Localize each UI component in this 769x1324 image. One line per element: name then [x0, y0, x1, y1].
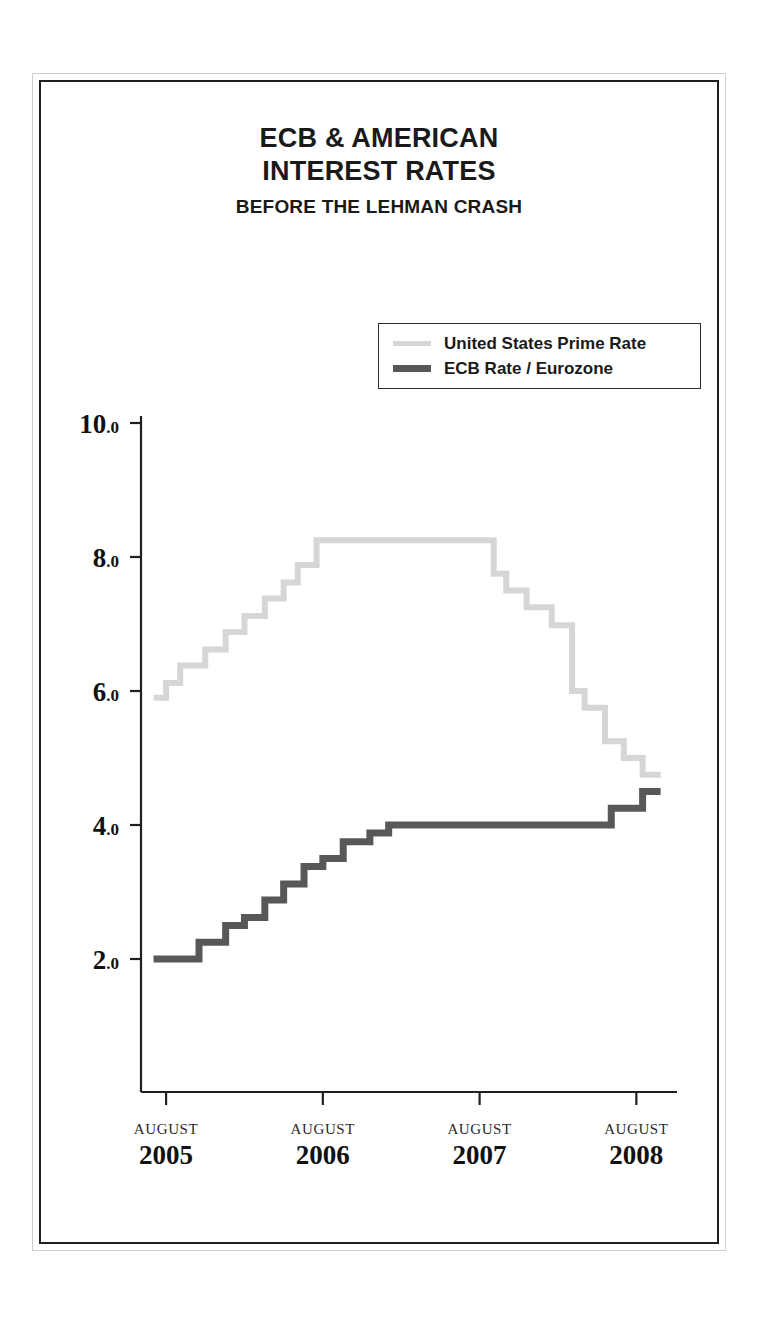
svg-text:2008: 2008 — [609, 1140, 663, 1170]
chart-plot-area: 2.04.06.08.010.0 AUGUST2005AUGUST2006AUG… — [41, 82, 735, 1260]
svg-text:2007: 2007 — [453, 1140, 507, 1170]
svg-text:AUGUST: AUGUST — [604, 1121, 668, 1137]
svg-text:AUGUST: AUGUST — [447, 1121, 511, 1137]
chart-series — [154, 540, 661, 959]
figure-frame-outer: ECB & AMERICAN INTEREST RATES BEFORE THE… — [32, 73, 726, 1251]
svg-text:AUGUST: AUGUST — [291, 1121, 355, 1137]
figure-frame-inner: ECB & AMERICAN INTEREST RATES BEFORE THE… — [39, 80, 719, 1244]
chart-axes — [130, 416, 677, 1105]
series-line-ecb-rate — [154, 792, 661, 960]
chart-y-tick-labels: 2.04.06.08.010.0 — [79, 409, 119, 975]
svg-text:4.0: 4.0 — [93, 811, 119, 841]
svg-text:8.0: 8.0 — [93, 543, 119, 573]
series-line-us-prime-rate — [154, 540, 661, 775]
svg-text:2005: 2005 — [139, 1140, 193, 1170]
svg-text:10.0: 10.0 — [79, 409, 119, 439]
svg-text:6.0: 6.0 — [93, 677, 119, 707]
chart-x-tick-labels: AUGUST2005AUGUST2006AUGUST2007AUGUST2008 — [134, 1121, 669, 1170]
svg-text:2006: 2006 — [296, 1140, 350, 1170]
svg-text:AUGUST: AUGUST — [134, 1121, 198, 1137]
svg-text:2.0: 2.0 — [93, 945, 119, 975]
